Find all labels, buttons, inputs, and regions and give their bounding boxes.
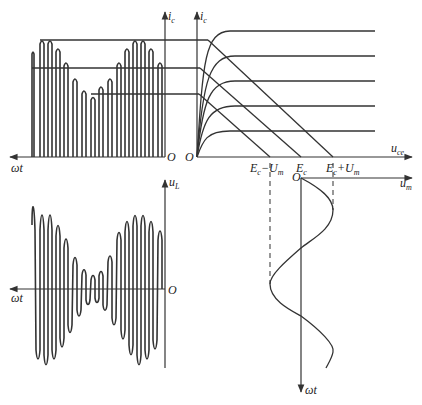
ic-axis-label-left: ic — [168, 9, 175, 25]
am-load-voltage-waveform — [32, 207, 162, 365]
ic-axis-label-right: ic — [200, 9, 207, 25]
origin-label-top-left: O — [167, 150, 176, 164]
ul-axis-label: uL — [169, 175, 180, 191]
wt-label-top: ωt — [11, 161, 23, 175]
panel-load-voltage: uL ωt O — [10, 175, 180, 368]
origin-label-bottom-left: O — [168, 283, 177, 297]
wt-label-bottom: ωt — [11, 291, 23, 305]
tick-ec-minus-um: Ec−Um — [249, 161, 284, 177]
load-lines — [199, 40, 333, 157]
wt-label-vertical: ωt — [305, 383, 317, 397]
origin-label-top-right: O — [185, 150, 194, 164]
projection-lines — [32, 40, 208, 94]
current-pulse-train — [32, 41, 162, 157]
tick-ec-plus-um: Ec+Um — [325, 161, 360, 177]
characteristic-curves — [197, 31, 375, 157]
uce-axis-label: uce — [391, 141, 405, 157]
panel-collector-current-pulses: ic ωt O — [10, 9, 176, 175]
origin-label-bottom-right: O — [292, 170, 301, 184]
panel-output-characteristics: ic uce O Ec−Um Ec Ec+Um — [185, 9, 412, 177]
panel-modulating-signal: um ωt O — [270, 163, 412, 397]
am-modulation-diagram: ic ωt O ic uce O — [0, 0, 422, 405]
